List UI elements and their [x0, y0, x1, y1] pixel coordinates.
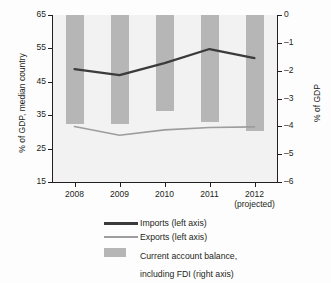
left-axis-tick — [48, 82, 52, 83]
x-axis-category-label: 2010 — [142, 189, 187, 199]
chart-figure: 6555453525150–1–2–3–4–5–6200820092010201… — [0, 0, 331, 283]
right-axis-title: % of GDP — [312, 58, 322, 148]
left-axis-tick — [48, 48, 52, 49]
right-axis-tick — [278, 71, 282, 72]
right-axis-tick — [278, 154, 282, 155]
left-axis-title: % of GDP, median country — [17, 43, 27, 163]
x-axis-category-label: 2008 — [52, 189, 97, 199]
legend-label-current-account-line1: Current account balance, — [140, 251, 237, 261]
right-axis-tick — [278, 15, 282, 16]
right-axis-tick-label: –2 — [284, 66, 293, 75]
right-axis-tick-label: –5 — [284, 149, 293, 158]
right-axis-tick — [278, 182, 282, 183]
right-axis-tick — [278, 43, 282, 44]
x-axis-category-label: 2011 — [187, 189, 232, 199]
legend-item-imports: Imports (left axis) — [104, 218, 314, 230]
legend-label-current-account-line2: including FDI (right axis) — [140, 269, 234, 279]
legend-marker-exports-icon — [104, 232, 140, 238]
right-axis-tick — [278, 99, 282, 100]
x-axis-tick — [75, 183, 76, 187]
left-axis-tick-label: 35 — [37, 110, 46, 119]
legend-item-exports: Exports (left axis) — [104, 232, 314, 244]
left-axis-tick-label: 65 — [37, 10, 46, 19]
x-axis-tick — [165, 183, 166, 187]
legend-label-current-account-wrap: Current account balance, including FDI (… — [140, 245, 237, 281]
right-axis-tick-label: –6 — [284, 177, 293, 186]
line-imports — [75, 49, 255, 75]
line-exports — [75, 127, 255, 136]
x-axis-tick — [120, 183, 121, 187]
left-axis-tick — [48, 15, 52, 16]
legend-item-current-account: Current account balance, including FDI (… — [104, 245, 314, 281]
left-axis-tick-label: 15 — [37, 177, 46, 186]
left-axis-tick — [48, 182, 52, 183]
left-axis-tick-label: 25 — [37, 144, 46, 153]
left-axis-tick — [48, 115, 52, 116]
right-axis-tick-label: 0 — [284, 10, 289, 19]
x-axis-category-label: 2009 — [97, 189, 142, 199]
legend-label-imports: Imports (left axis) — [140, 218, 207, 230]
right-axis-tick-label: –3 — [284, 94, 293, 103]
legend-marker-imports-icon — [104, 218, 140, 225]
chart-legend: Imports (left axis) Exports (left axis) … — [104, 218, 314, 283]
right-axis-tick — [278, 126, 282, 127]
x-axis-tick — [210, 183, 211, 187]
left-axis-tick — [48, 149, 52, 150]
right-axis-tick-label: –1 — [284, 38, 293, 47]
left-axis-tick-label: 45 — [37, 77, 46, 86]
line-series-layer — [52, 15, 277, 182]
x-axis-category-label: 2012(projected) — [232, 189, 277, 209]
legend-marker-current-account-icon — [104, 245, 140, 257]
right-axis-tick-label: –4 — [284, 121, 293, 130]
legend-label-exports: Exports (left axis) — [140, 232, 207, 244]
x-axis-category-sublabel: (projected) — [232, 199, 277, 209]
left-axis-tick-label: 55 — [37, 43, 46, 52]
x-axis-tick — [255, 183, 256, 187]
